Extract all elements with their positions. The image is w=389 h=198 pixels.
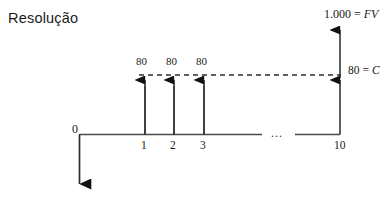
coupon-equals-sign: =: [363, 64, 370, 76]
timeline-ellipsis: ...: [271, 127, 283, 139]
tick-label-2: 2: [170, 140, 176, 152]
future-value-amount: 1.000: [324, 7, 351, 21]
cash-label-period-1: 80: [136, 56, 147, 67]
coupon-amount: 80: [348, 64, 360, 76]
cash-flow-diagram: [0, 0, 389, 198]
tick-label-3: 3: [200, 140, 206, 152]
future-value-equals-sign: =: [354, 7, 361, 21]
future-value-annotation: 1.000=FV: [324, 8, 378, 20]
cash-label-period-2: 80: [166, 56, 177, 67]
future-value-symbol: FV: [364, 7, 379, 21]
diagram-page: Resolução 80 80 8: [0, 0, 389, 198]
tick-label-1: 1: [141, 140, 147, 152]
tick-label-0: 0: [72, 123, 78, 135]
tick-label-10: 10: [334, 140, 346, 152]
coupon-symbol: C: [372, 64, 380, 76]
cash-label-period-3: 80: [196, 56, 207, 67]
coupon-annotation: 80=C: [348, 65, 380, 77]
